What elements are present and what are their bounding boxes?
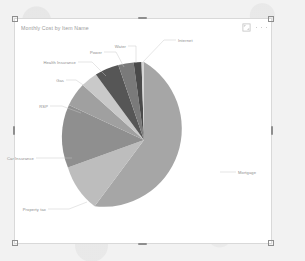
pie-label-car-insurance: Car Insurance xyxy=(7,156,35,161)
pie-chart-visual-container[interactable]: Monthly Cost by Item Name xyxy=(14,18,272,244)
pie-label-internet: Internet xyxy=(178,38,193,43)
pie-label-rsp: RSP xyxy=(39,104,48,109)
pie-chart-svg[interactable]: Mortgage Property tax Car Insurance RSP … xyxy=(24,36,264,242)
leader-line-internet xyxy=(143,40,176,62)
pie-label-health-insurance: Health Insurance xyxy=(43,60,76,65)
resize-handle-bottom-left[interactable] xyxy=(12,240,18,246)
visual-title: Monthly Cost by Item Name xyxy=(21,25,231,32)
leader-line-water xyxy=(128,46,136,63)
pie-label-power: Power xyxy=(90,50,103,55)
pie-slices xyxy=(62,62,182,207)
pie-label-property-tax: Property tax xyxy=(23,207,46,212)
focus-mode-icon[interactable] xyxy=(242,23,251,32)
resize-handle-top-right[interactable] xyxy=(268,16,274,22)
resize-handle-bottom-right[interactable] xyxy=(268,240,274,246)
more-options-icon[interactable] xyxy=(256,23,267,32)
visual-header-icons xyxy=(242,23,267,32)
pie-chart-plot-area: Mortgage Property tax Car Insurance RSP … xyxy=(15,33,273,245)
pie-label-water: Water xyxy=(115,44,127,49)
leader-line-property-tax xyxy=(48,202,87,209)
pie-label-gas: Gas xyxy=(56,78,64,83)
resize-handle-bottom-center[interactable] xyxy=(138,243,147,245)
resize-handle-middle-right[interactable] xyxy=(271,126,273,135)
pie-wrap: Mortgage Property tax Car Insurance RSP … xyxy=(24,36,264,242)
pie-label-mortgage: Mortgage xyxy=(238,170,257,175)
resize-handle-top-center[interactable] xyxy=(138,17,147,19)
screenshot-root: Monthly Cost by Item Name xyxy=(0,0,305,261)
resize-handle-top-left[interactable] xyxy=(12,16,18,22)
resize-handle-middle-left[interactable] xyxy=(13,126,15,135)
